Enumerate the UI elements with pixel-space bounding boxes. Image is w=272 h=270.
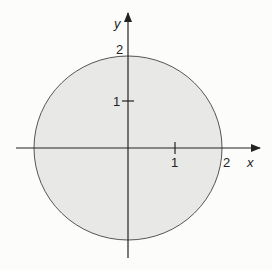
x-tick-label-1: 1 xyxy=(171,155,178,170)
diagram-svg: 1 2 1 2 x y xyxy=(0,0,272,270)
diagram-canvas: 1 2 1 2 x y xyxy=(0,0,272,270)
x-tick-label-2: 2 xyxy=(223,155,230,170)
y-tick-label-1: 1 xyxy=(113,94,120,109)
x-axis-label: x xyxy=(246,155,254,170)
y-axis-label: y xyxy=(113,16,122,31)
y-tick-label-2: 2 xyxy=(116,42,123,57)
